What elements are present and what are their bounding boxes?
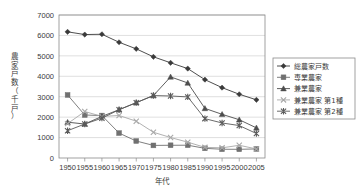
y-tick-label: 3000 [37,93,54,102]
marker-triangle [168,74,174,79]
x-tick-label: 1975 [145,163,162,172]
marker-diamond [116,40,121,45]
x-tick-label: 1950 [59,163,76,172]
marker-triangle [202,106,208,111]
y-axis-title-char: 千 [11,94,19,104]
legend-label: 兼業農家 [294,84,322,93]
marker-triangle [254,125,260,130]
marker-diamond [168,60,173,65]
legend-label: 兼業農家 第2種 [294,107,343,116]
marker-cross [151,130,156,135]
marker-diamond [82,32,87,37]
series-line [68,95,257,149]
y-axis-title: 農家戸数（千戸） [11,51,19,121]
marker-diamond [99,32,104,37]
marker-square [117,131,122,136]
y-axis-title-char: 家 [11,60,19,70]
series-3 [65,74,259,130]
y-tick-label: 1000 [37,133,54,142]
marker-square [151,143,156,148]
marker-diamond [254,97,259,102]
marker-square [168,143,173,148]
marker-diamond [65,29,70,34]
x-tick-label: 1980 [162,163,179,172]
legend-label: 専業農家 [294,73,322,82]
chart-container: 0100020003000400050006000700019501955196… [0,0,357,190]
marker-diamond [219,85,224,90]
series-2 [65,93,259,152]
y-tick-label: 2000 [37,113,54,122]
y-tick-label: 7000 [37,11,54,20]
marker-square [281,75,286,80]
x-tick-label: 2000 [231,163,248,172]
marker-square [65,93,70,98]
legend-label: 総農家戸数 [294,62,329,71]
series-line [68,32,257,100]
y-tick-label: 4000 [37,72,54,81]
x-tick-label: 1965 [111,163,128,172]
x-axis-title: 年代 [155,176,170,186]
marker-diamond [151,54,156,59]
x-tick-label: 1985 [179,163,196,172]
x-tick-label: 1970 [128,163,145,172]
line-chart: 0100020003000400050006000700019501955196… [0,0,357,190]
marker-cross [134,119,139,124]
x-axis: 1950195519601965197019751980198519901995… [59,158,265,172]
marker-diamond [134,46,139,51]
x-tick-label: 1995 [214,163,231,172]
marker-diamond [237,92,242,97]
legend-label: 兼業農家 第1種 [294,96,343,105]
x-tick-label: 1960 [94,163,111,172]
y-axis-title-char: 数 [11,77,19,87]
y-axis-title-char: ） [11,112,18,121]
marker-star [254,130,259,136]
series-1 [65,29,259,102]
y-tick-label: 5000 [37,52,54,61]
y-axis-title-char: 農 [11,51,19,61]
x-tick-label: 1990 [197,163,214,172]
y-tick-label: 0 [50,154,54,163]
marker-diamond [185,66,190,71]
y-gridlines: 01000200030004000500060007000 [37,11,265,163]
legend: 総農家戸数専業農家兼業農家兼業農家 第1種兼業農家 第2種 [273,58,355,119]
x-tick-label: 1955 [76,163,93,172]
marker-diamond [202,77,207,82]
marker-square [134,139,139,144]
marker-star [65,128,70,134]
y-tick-label: 6000 [37,31,54,40]
x-tick-label: 2005 [248,163,265,172]
